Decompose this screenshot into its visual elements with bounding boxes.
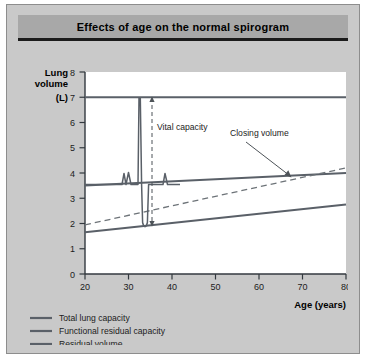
x-tick-label-70: 70 [297,282,307,292]
figure-title-bar: Effects of age on the normal spirogram [18,15,348,41]
figure-panel: Effects of age on the normal spirogram [6,4,360,354]
spirogram-chart: 8 7 6 5 4 3 2 1 0 Lung volume (L) [18,53,348,345]
x-axis-ticks [85,274,346,280]
x-axis-tick-labels: 20 30 40 50 60 70 80 [80,282,348,292]
y-tick-label-7: 7 [70,93,75,103]
x-tick-label-40: 40 [167,282,177,292]
x-tick-label-20: 20 [80,282,90,292]
legend-label-residual-volume: Residual volume [59,339,123,345]
annotation-vital-capacity-label: Vital capacity [157,122,208,132]
y-tick-label-0: 0 [70,270,75,280]
legend-item-functional-residual-capacity: Functional residual capacity [30,326,166,336]
legend-item-residual-volume: Residual volume [30,339,123,345]
x-tick-label-80: 80 [341,282,348,292]
y-axis-title-line2: volume [35,78,68,89]
x-axis-title: Age (years) [294,299,346,310]
y-tick-label-6: 6 [70,118,75,128]
y-tick-label-5: 5 [70,143,75,153]
y-axis-title-line3: (L) [56,92,68,103]
page-title: Effects of age on the normal spirogram [77,21,289,33]
annotation-closing-volume-label: Closing volume [230,128,289,138]
y-tick-label-3: 3 [70,194,75,204]
legend-item-total-lung-capacity: Total lung capacity [30,313,130,323]
legend-label-functional-residual-capacity: Functional residual capacity [59,326,166,336]
y-axis-ticks [80,72,86,274]
x-tick-label-60: 60 [254,282,264,292]
chart-legend: Total lung capacity Functional residual … [30,313,166,345]
y-axis-tick-labels: 8 7 6 5 4 3 2 1 0 [70,68,75,280]
chart-area: 8 7 6 5 4 3 2 1 0 Lung volume (L) [18,53,348,345]
y-axis-title-line1: Lung [45,67,68,78]
y-tick-label-8: 8 [70,68,75,78]
legend-label-total-lung-capacity: Total lung capacity [59,313,130,323]
y-tick-label-1: 1 [70,244,75,254]
y-axis-title: Lung volume (L) [35,67,68,103]
x-tick-label-50: 50 [210,282,220,292]
y-tick-label-2: 2 [70,219,75,229]
x-tick-label-30: 30 [123,282,133,292]
y-tick-label-4: 4 [70,169,75,179]
